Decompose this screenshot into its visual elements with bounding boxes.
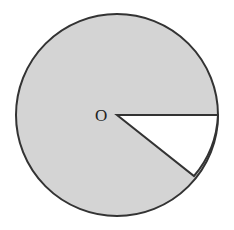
circle-diagram: O: [0, 0, 234, 230]
center-label-o: O: [95, 106, 107, 125]
